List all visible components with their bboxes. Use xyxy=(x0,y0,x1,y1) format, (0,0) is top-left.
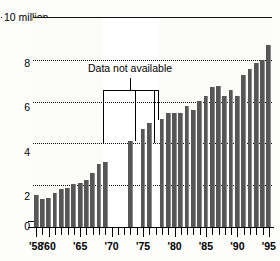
x-tick-1972 xyxy=(124,228,125,235)
x-tick-1971 xyxy=(118,228,119,235)
x-tick-1973 xyxy=(130,228,131,235)
annotation-leg-left xyxy=(103,90,104,143)
x-tick-1989 xyxy=(231,228,232,235)
x-tick-label-1965: '65 xyxy=(73,240,87,252)
x-tick-1990 xyxy=(237,228,238,237)
bar-1987 xyxy=(216,86,221,227)
bar-1982 xyxy=(185,106,190,227)
bar-1965 xyxy=(78,183,83,227)
x-tick-1993 xyxy=(256,228,257,235)
bar-1981 xyxy=(178,113,183,227)
bar-1979 xyxy=(166,113,171,227)
bar-1989 xyxy=(229,90,234,227)
x-tick-1977 xyxy=(156,228,157,235)
x-tick-label-1990: '90 xyxy=(230,240,244,252)
x-tick-1988 xyxy=(225,228,226,235)
bar-1994 xyxy=(260,60,265,227)
bar-1968 xyxy=(97,164,102,227)
y-tick-label-8: 8 xyxy=(24,58,30,68)
bar-1975 xyxy=(141,129,146,227)
bar-1963 xyxy=(65,188,70,227)
x-tick-1976 xyxy=(149,228,150,235)
x-tick-label-1980: '80 xyxy=(167,240,181,252)
bar-1991 xyxy=(241,75,246,227)
x-tick-1994 xyxy=(263,228,264,235)
x-tick-1995 xyxy=(269,228,270,237)
bar-1993 xyxy=(254,63,259,227)
x-tick-1985 xyxy=(206,228,207,237)
x-tick-1974 xyxy=(137,228,138,235)
x-tick-1978 xyxy=(162,228,163,235)
bar-1978 xyxy=(160,119,165,227)
y-axis-zero-stub xyxy=(28,221,34,222)
bar-1984 xyxy=(197,101,202,227)
chart-container: 10 million 8 6 4 2 0 Data not available … xyxy=(0,0,280,261)
annotation-label: Data not available xyxy=(88,62,172,74)
x-tick-1970 xyxy=(112,228,113,237)
bar-1967 xyxy=(90,173,95,227)
x-tick-1975 xyxy=(143,228,144,237)
x-tick-1969 xyxy=(105,228,106,235)
annotation-rail xyxy=(103,90,158,91)
bar-1995 xyxy=(266,45,271,227)
x-tick-1992 xyxy=(250,228,251,235)
bar-1986 xyxy=(210,87,215,227)
bar-1969 xyxy=(103,162,108,227)
x-tick-1987 xyxy=(219,228,220,235)
x-tick-1966 xyxy=(86,228,87,235)
x-tick-1962 xyxy=(61,228,62,235)
y-tick-label-4: 4 xyxy=(24,147,30,157)
x-tick-label-1985: '85 xyxy=(199,240,213,252)
x-tick-1958 xyxy=(36,228,37,237)
x-tick-1981 xyxy=(181,228,182,235)
plot-area xyxy=(33,18,272,227)
x-tick-1984 xyxy=(200,228,201,235)
bar-1962 xyxy=(59,189,64,227)
bar-1988 xyxy=(222,96,227,227)
x-tick-1980 xyxy=(175,228,176,237)
x-tick-1964 xyxy=(74,228,75,235)
x-tick-1963 xyxy=(68,228,69,235)
x-tick-1965 xyxy=(80,228,81,237)
x-tick-1968 xyxy=(99,228,100,235)
x-tick-1959 xyxy=(42,228,43,235)
bar-1966 xyxy=(84,180,89,227)
x-tick-label-1995: '95 xyxy=(262,240,276,252)
bar-1976 xyxy=(147,123,152,228)
annotation-pointer xyxy=(130,78,131,90)
bar-1964 xyxy=(71,184,76,227)
x-tick-label-1975: '75 xyxy=(136,240,150,252)
y-tick-label-2: 2 xyxy=(24,191,30,201)
x-tick-1967 xyxy=(93,228,94,235)
x-tick-label-1960: '60 xyxy=(42,240,56,252)
bar-1990 xyxy=(235,96,240,227)
bar-1985 xyxy=(204,96,209,227)
bar-1973 xyxy=(128,141,133,227)
x-tick-1983 xyxy=(193,228,194,235)
x-tick-1960 xyxy=(49,228,50,237)
annotation-leg-right xyxy=(158,90,159,120)
y-axis-labels: 8 6 4 2 0 xyxy=(0,0,30,261)
bar-1980 xyxy=(172,113,177,227)
x-tick-1979 xyxy=(168,228,169,235)
x-tick-1986 xyxy=(212,228,213,235)
bar-1958 xyxy=(34,195,39,227)
y-tick-label-0: 0 xyxy=(24,221,30,231)
top-rule-leader xyxy=(0,17,2,18)
x-tick-1961 xyxy=(55,228,56,235)
bar-1960 xyxy=(46,198,51,227)
gridline-8 xyxy=(33,60,272,61)
y-tick-label-6: 6 xyxy=(24,102,30,112)
annotation-leg-inner-b xyxy=(154,90,155,143)
bar-1992 xyxy=(248,69,253,227)
x-tick-1982 xyxy=(187,228,188,235)
bar-1959 xyxy=(40,199,45,227)
annotation-leg-inner-a xyxy=(135,90,136,141)
x-tick-label-1970: '70 xyxy=(105,240,119,252)
bar-1983 xyxy=(191,110,196,227)
x-tick-1991 xyxy=(244,228,245,235)
bar-1961 xyxy=(53,193,58,227)
